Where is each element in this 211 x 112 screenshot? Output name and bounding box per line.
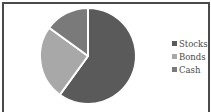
legend-label-bonds: Bonds [179,52,206,62]
legend-item-bonds: Bonds [172,50,208,63]
chart-legend: Stocks Bonds Cash [172,37,208,76]
legend-swatch-bonds [172,54,177,59]
legend-label-stocks: Stocks [179,39,208,49]
legend-item-cash: Cash [172,63,208,76]
legend-swatch-cash [172,67,177,72]
legend-item-stocks: Stocks [172,37,208,50]
legend-label-cash: Cash [179,65,200,75]
legend-swatch-stocks [172,41,177,46]
